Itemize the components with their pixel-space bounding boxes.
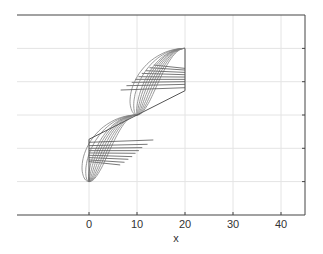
chart-plot: 010203040 x xyxy=(0,0,323,254)
x-tick-labels: 010203040 xyxy=(86,218,287,230)
chord-line xyxy=(126,84,185,85)
x-tick-label: 30 xyxy=(227,218,239,230)
chord-line xyxy=(89,140,153,142)
x-axis-label: x xyxy=(173,232,179,244)
x-tick-label: 20 xyxy=(179,218,191,230)
x-tick-label: 10 xyxy=(131,218,143,230)
grid-lines xyxy=(17,15,305,215)
x-tick-label: 40 xyxy=(275,218,287,230)
x-tick-label: 0 xyxy=(86,218,92,230)
